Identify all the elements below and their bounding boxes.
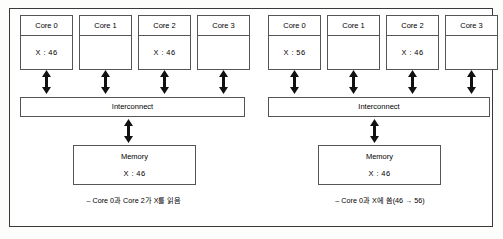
core-box-0[interactable]: Core 0 X : 56 [268, 15, 321, 70]
core-title: Core 2 [387, 16, 438, 36]
double-headed-vertical-arrow-icon [41, 70, 52, 94]
double-headed-vertical-arrow-icon [289, 70, 300, 94]
memory-value: X : 46 [319, 169, 440, 178]
double-headed-vertical-arrow-icon [369, 119, 380, 143]
double-headed-vertical-arrow-icon [100, 70, 111, 94]
core-title: Core 1 [328, 16, 379, 36]
core-box-1[interactable]: Core 1 [327, 15, 380, 70]
arrow-cell-core-2 [386, 69, 439, 95]
arrow-cell-core-0 [268, 69, 321, 95]
memory-title: Memory [319, 152, 440, 161]
core-title: Core 2 [139, 16, 190, 36]
core-value: X : 46 [387, 36, 438, 69]
arrow-cell-core-3 [445, 69, 498, 95]
interconnect-bar[interactable]: Interconnect [20, 97, 245, 117]
memory-box[interactable]: Memory X : 46 [318, 145, 441, 185]
panel-caption: – Core 0과 X에 씀(46 → 56) [262, 195, 498, 205]
memory-title: Memory [74, 152, 195, 161]
memory-link-arrow [8, 119, 248, 143]
core-title: Core 0 [21, 16, 72, 36]
core-value [80, 36, 131, 69]
core-box-3[interactable]: Core 3 [445, 15, 498, 70]
core-box-1[interactable]: Core 1 [79, 15, 132, 70]
double-headed-vertical-arrow-icon [123, 119, 134, 143]
double-headed-vertical-arrow-icon [466, 70, 477, 94]
double-headed-vertical-arrow-icon [218, 70, 229, 94]
double-headed-vertical-arrow-icon [407, 70, 418, 94]
arrow-cell-core-3 [197, 69, 250, 95]
memory-value: X : 46 [74, 169, 195, 178]
panel-after: Core 0 X : 56 Core 1 Core 2 X : 46 Core … [262, 9, 498, 226]
core-value: X : 46 [21, 36, 72, 69]
core-value [328, 36, 379, 69]
memory-box[interactable]: Memory X : 46 [73, 145, 196, 185]
diagram-canvas: Core 0 X : 46 Core 1 Core 2 X : 46 Core … [0, 0, 503, 239]
core-box-2[interactable]: Core 2 X : 46 [386, 15, 439, 70]
core-box-3[interactable]: Core 3 [197, 15, 250, 70]
core-value [198, 36, 249, 69]
double-headed-vertical-arrow-icon [159, 70, 170, 94]
core-value: X : 56 [269, 36, 320, 69]
core-link-arrows-after [268, 69, 498, 95]
core-title: Core 3 [446, 16, 497, 36]
interconnect-bar[interactable]: Interconnect [268, 97, 490, 117]
arrow-cell-core-2 [138, 69, 191, 95]
arrow-cell-core-0 [20, 69, 73, 95]
core-title: Core 3 [198, 16, 249, 36]
core-box-2[interactable]: Core 2 X : 46 [138, 15, 191, 70]
core-row-after: Core 0 X : 56 Core 1 Core 2 X : 46 Core … [268, 15, 498, 70]
core-row-before: Core 0 X : 46 Core 1 Core 2 X : 46 Core … [20, 15, 250, 70]
memory-link-arrow [256, 119, 492, 143]
panel-caption: – Core 0과 Core 2가 X를 읽음 [14, 195, 254, 205]
core-value: X : 46 [139, 36, 190, 69]
core-link-arrows-before [20, 69, 250, 95]
core-title: Core 0 [269, 16, 320, 36]
core-box-0[interactable]: Core 0 X : 46 [20, 15, 73, 70]
core-title: Core 1 [80, 16, 131, 36]
arrow-cell-core-1 [79, 69, 132, 95]
panel-before: Core 0 X : 46 Core 1 Core 2 X : 46 Core … [14, 9, 254, 226]
core-value [446, 36, 497, 69]
diagram-outer-frame: Core 0 X : 46 Core 1 Core 2 X : 46 Core … [9, 8, 493, 227]
double-headed-vertical-arrow-icon [348, 70, 359, 94]
arrow-cell-core-1 [327, 69, 380, 95]
